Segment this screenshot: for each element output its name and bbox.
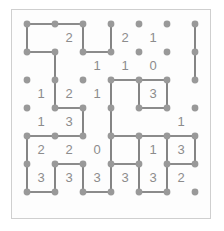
clue-number: 2 bbox=[173, 170, 189, 186]
clue-number: 3 bbox=[173, 142, 189, 158]
clue-number: 0 bbox=[89, 142, 105, 158]
clue-number: 1 bbox=[117, 58, 133, 74]
clue-number-layer: 221110121313122013333332 bbox=[0, 0, 224, 231]
clue-number: 1 bbox=[173, 114, 189, 130]
clue-number: 0 bbox=[145, 58, 161, 74]
clue-number: 2 bbox=[117, 30, 133, 46]
clue-number: 1 bbox=[33, 114, 49, 130]
clue-number: 3 bbox=[61, 114, 77, 130]
clue-number: 3 bbox=[33, 170, 49, 186]
clue-number: 2 bbox=[61, 86, 77, 102]
clue-number: 1 bbox=[89, 86, 105, 102]
clue-number: 3 bbox=[145, 86, 161, 102]
clue-number: 2 bbox=[61, 142, 77, 158]
clue-number: 1 bbox=[145, 30, 161, 46]
clue-number: 1 bbox=[89, 58, 105, 74]
clue-number: 1 bbox=[33, 86, 49, 102]
clue-number: 2 bbox=[33, 142, 49, 158]
clue-number: 3 bbox=[61, 170, 77, 186]
clue-number: 1 bbox=[145, 142, 161, 158]
clue-number: 3 bbox=[117, 170, 133, 186]
clue-number: 3 bbox=[89, 170, 105, 186]
slitherlink-puzzle: 221110121313122013333332 bbox=[0, 0, 224, 231]
clue-number: 3 bbox=[145, 170, 161, 186]
clue-number: 2 bbox=[61, 30, 77, 46]
